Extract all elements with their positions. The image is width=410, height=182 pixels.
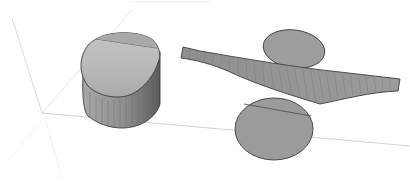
axis-line-lower (45, 118, 62, 178)
cylinder (81, 33, 160, 128)
axis-line-lower-left (10, 118, 44, 158)
lower-disc-face (235, 98, 313, 160)
3d-scene-canvas (0, 0, 410, 182)
lower-disc (235, 98, 313, 160)
axis-line-left (12, 18, 42, 113)
scene-svg (0, 0, 410, 182)
